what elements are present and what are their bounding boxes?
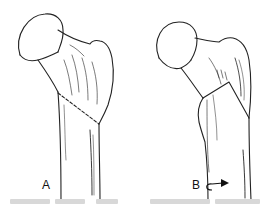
panel-a-label: A bbox=[42, 178, 50, 192]
panel-b: B bbox=[137, 0, 275, 204]
panel-b-label: B bbox=[192, 178, 200, 192]
femur-a-drawing bbox=[0, 0, 138, 204]
panel-a: A bbox=[0, 0, 138, 204]
figure-caption-cropped bbox=[0, 196, 275, 204]
femur-b-drawing bbox=[137, 0, 275, 204]
femur-fracture-figure: A bbox=[0, 0, 275, 204]
curved-rotation-arrow-icon bbox=[207, 179, 229, 190]
